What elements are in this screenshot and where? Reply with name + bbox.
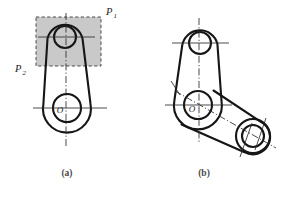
- caption-b: (b): [198, 168, 210, 179]
- center-label-o-b: O: [189, 104, 196, 114]
- plane-label-p1-subscript: 1: [114, 12, 118, 20]
- caption-a: (a): [61, 168, 72, 179]
- drawing-canvas: P 1 P 2 O (a) O (b): [0, 0, 289, 199]
- center-label-o-a: O: [57, 105, 64, 115]
- plane-label-p2-base: P: [14, 63, 22, 74]
- plane-label-p1-base: P: [105, 6, 113, 17]
- plane-label-p2-subscript: 2: [23, 69, 27, 77]
- technical-drawing-figure: P 1 P 2 O (a) O (b): [0, 0, 289, 199]
